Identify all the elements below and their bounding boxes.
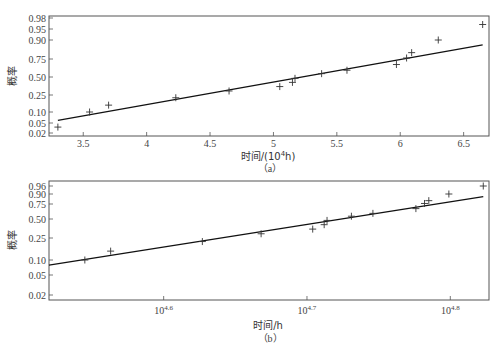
x-tick-label: 3.5 [77, 138, 90, 149]
x-axis-ticks-a: 3.544.555.566.5 [77, 132, 470, 149]
x-tick-label: 6 [398, 138, 403, 149]
y-tick-label: 0.50 [29, 72, 47, 83]
data-point-marker [408, 49, 415, 56]
caption-a: （a） [258, 163, 282, 174]
y-tick-label: 0.98 [29, 13, 47, 24]
fit-line-b [49, 197, 483, 266]
x-axis-ticks-b: 104.6104.7104.8 [154, 296, 460, 316]
data-point-marker [54, 124, 61, 131]
data-point-marker [348, 213, 355, 220]
y-tick-label: 0.75 [29, 54, 47, 65]
data-point-marker [369, 210, 376, 217]
x-tick-label: 5 [271, 138, 276, 149]
x-tick-label: 104.6 [154, 304, 173, 316]
data-point-marker [435, 37, 442, 44]
data-point-marker [199, 238, 206, 245]
data-point-marker [445, 191, 452, 198]
y-tick-label: 0.25 [29, 90, 47, 101]
caption-b: （b） [258, 333, 283, 344]
x-tick-label: 5.5 [331, 138, 344, 149]
data-point-marker [309, 226, 316, 233]
y-tick-label: 0.90 [29, 35, 47, 46]
y-tick-label: 0.10 [29, 255, 47, 266]
x-tick-label: 104.8 [441, 304, 460, 316]
data-point-marker [105, 102, 112, 109]
y-tick-label: 0.02 [29, 290, 47, 301]
y-tick-label: 0.05 [29, 118, 47, 129]
data-point-marker [107, 248, 114, 255]
chart-b: 0.020.050.100.250.500.750.900.96 104.610… [6, 181, 489, 345]
y-tick-label: 0.50 [29, 214, 47, 225]
y-axis-label-b: 概率 [6, 230, 18, 250]
data-point-marker [276, 83, 283, 90]
figure-canvas: 0.020.050.100.250.500.750.900.950.98 3.5… [0, 0, 501, 351]
fit-line [58, 45, 483, 120]
fit-line [49, 197, 483, 266]
x-tick-label: 4.5 [204, 138, 217, 149]
y-tick-label: 0.05 [29, 270, 47, 281]
data-point-marker [480, 183, 487, 190]
y-tick-label: 0.25 [29, 233, 47, 244]
chart-a: 0.020.050.100.250.500.750.900.950.98 3.5… [6, 13, 489, 175]
x-tick-label: 4 [144, 138, 149, 149]
y-axis-label-a: 概率 [6, 66, 18, 86]
plot-frame-b [49, 181, 489, 300]
data-point-marker [81, 257, 88, 264]
x-tick-label: 104.7 [298, 304, 317, 316]
y-tick-label: 0.95 [29, 24, 47, 35]
data-point-marker [226, 87, 233, 94]
y-tick-label: 0.02 [29, 128, 47, 139]
data-point-marker [479, 21, 486, 28]
y-tick-label: 0.10 [29, 107, 47, 118]
data-point-marker [403, 55, 410, 62]
x-axis-label-b: 时间/h [253, 319, 283, 331]
data-point-marker [318, 70, 325, 77]
data-point-marker [393, 61, 400, 68]
y-tick-label: 0.96 [29, 181, 47, 192]
plot-frame-a [49, 16, 489, 136]
data-point-marker [343, 67, 350, 74]
y-tick-label: 0.75 [29, 199, 47, 210]
data-points-b [81, 183, 486, 264]
x-tick-label: 6.5 [457, 138, 470, 149]
x-axis-label-a: 时间/(104h) [241, 150, 296, 162]
fit-line-a [58, 45, 483, 120]
data-points-a [54, 21, 486, 131]
